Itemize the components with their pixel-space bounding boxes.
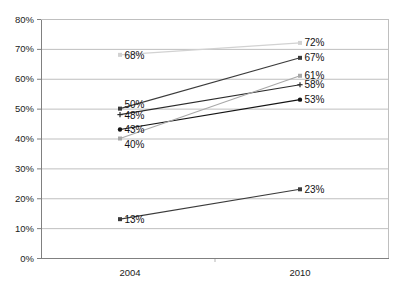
data-point-marker — [118, 53, 122, 57]
data-point-label: 61% — [305, 70, 325, 81]
chart-canvas: 0%10%20%30%40%50%60%70%80% 68%72%50%67%4… — [0, 0, 399, 286]
x-tick-label: 2010 — [289, 267, 310, 278]
data-point-label: 67% — [305, 52, 325, 63]
y-tick-label: 80% — [15, 14, 35, 25]
data-point-label: 53% — [305, 94, 325, 105]
x-tick-label: 2004 — [119, 267, 140, 278]
data-point-label: 13% — [125, 214, 145, 225]
y-tick-label: 30% — [15, 163, 35, 174]
y-tick-label: 50% — [15, 103, 35, 114]
y-tick-label: 70% — [15, 43, 35, 54]
y-tick-label: 20% — [15, 193, 35, 204]
slope-chart: 0%10%20%30%40%50%60%70%80% 68%72%50%67%4… — [0, 0, 399, 286]
y-tick-label: 0% — [20, 253, 34, 264]
data-point-marker — [118, 137, 122, 141]
data-point-marker — [298, 41, 302, 45]
data-point-label: 23% — [305, 184, 325, 195]
data-point-label: 43% — [125, 124, 145, 135]
data-point-marker — [298, 187, 302, 191]
data-point-marker — [298, 56, 302, 60]
data-point-label: 48% — [125, 110, 145, 121]
y-tick-label: 60% — [15, 73, 35, 84]
y-tick-label: 10% — [15, 223, 35, 234]
data-point-label: 68% — [125, 50, 145, 61]
data-point-marker — [118, 217, 122, 221]
data-point-marker — [298, 97, 302, 101]
chart-background — [0, 0, 399, 286]
data-point-marker — [118, 127, 122, 131]
data-point-marker — [118, 107, 122, 111]
data-point-label: 72% — [305, 37, 325, 48]
data-point-label: 50% — [125, 99, 145, 110]
data-point-marker — [298, 74, 302, 78]
data-point-label: 40% — [125, 139, 145, 150]
y-tick-label: 40% — [15, 133, 35, 144]
